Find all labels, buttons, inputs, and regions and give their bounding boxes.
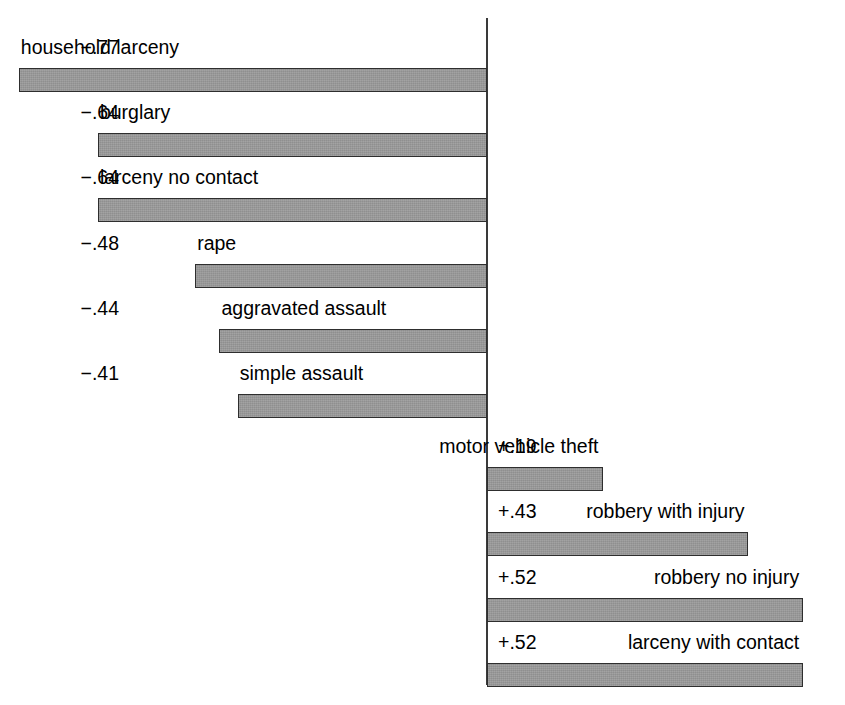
bar xyxy=(19,68,487,92)
bar-category-label: robbery with injury xyxy=(0,498,744,524)
bar-value-label: +.52 xyxy=(498,629,537,655)
bar-label-line: simple assault−.41 xyxy=(0,360,487,386)
bar xyxy=(219,329,487,353)
bar-value-label: +.19 xyxy=(498,433,537,459)
bar-value-label: −.44 xyxy=(81,295,120,321)
bar xyxy=(238,394,487,418)
bar-category-label: larceny with contact xyxy=(0,629,799,655)
bar-label-line: aggravated assault−.44 xyxy=(0,295,487,321)
bar-category-label: aggravated assault xyxy=(221,295,386,321)
bar-value-label: −.41 xyxy=(81,360,120,386)
bar xyxy=(195,264,487,288)
bar-category-label: larceny no contact xyxy=(100,164,258,190)
bar-value-label: +.52 xyxy=(498,564,537,590)
bar-label-line: robbery no injury+.52 xyxy=(0,564,845,590)
bar xyxy=(98,198,487,222)
bar-value-label: −.48 xyxy=(81,230,120,256)
bar-category-label: robbery no injury xyxy=(0,564,799,590)
bar xyxy=(487,598,803,622)
bar-label-line: robbery with injury+.43 xyxy=(0,498,845,524)
bar-value-label: −.64 xyxy=(81,164,120,190)
bar xyxy=(487,532,748,556)
bar-category-label: simple assault xyxy=(240,360,364,386)
bar xyxy=(98,133,487,157)
bar xyxy=(487,467,603,491)
bar-label-line: household larceny−.77 xyxy=(0,34,487,60)
bar-value-label: −.64 xyxy=(81,99,120,125)
bar-label-line: burglary−.64 xyxy=(0,99,487,125)
bar-label-line: larceny with contact+.52 xyxy=(0,629,845,655)
bar xyxy=(487,663,803,687)
bar-value-label: +.43 xyxy=(498,498,537,524)
bar-label-line: motor vehicle theft+.19 xyxy=(0,433,845,459)
bar-value-label: −.77 xyxy=(81,34,120,60)
bar-label-line: rape−.48 xyxy=(0,230,487,256)
bar-label-line: larceny no contact−.64 xyxy=(0,164,487,190)
bar-category-label: rape xyxy=(197,230,236,256)
bar-chart: household larceny−.77burglary−.64larceny… xyxy=(0,0,845,705)
